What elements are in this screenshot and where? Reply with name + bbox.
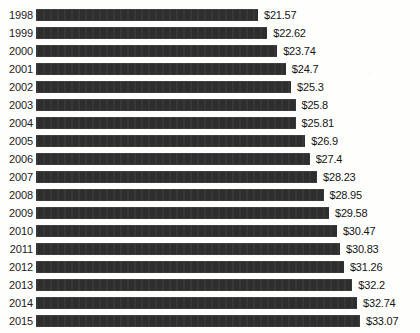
- bar-row: 2003$25.8: [0, 96, 420, 114]
- year-axis-label: 2002: [0, 81, 36, 93]
- bar-row: 2015$33.07: [0, 312, 420, 330]
- bar: [36, 243, 340, 255]
- year-axis-label: 2015: [0, 315, 36, 327]
- bar-chart: 1998$21.571999$22.622000$23.742001$24.72…: [0, 0, 420, 333]
- bar-value-label: $27.4: [316, 153, 343, 165]
- bar: [36, 189, 324, 201]
- bar-track: $21.57: [36, 6, 420, 24]
- bar-value-label: $24.7: [292, 63, 319, 75]
- year-axis-label: 2008: [0, 189, 36, 201]
- year-axis-label: 1998: [0, 9, 36, 21]
- year-axis-label: 1999: [0, 27, 36, 39]
- bar-value-label: $26.9: [311, 135, 338, 147]
- bar-track: $25.8: [36, 96, 420, 114]
- year-axis-label: 2001: [0, 63, 36, 75]
- year-axis-label: 2012: [0, 261, 36, 273]
- bar-row: 2011$30.83: [0, 240, 420, 258]
- year-axis-label: 2014: [0, 297, 36, 309]
- bar-value-label: $28.23: [323, 171, 355, 183]
- bar-row: 2013$32.2: [0, 276, 420, 294]
- bar-row: 2000$23.74: [0, 42, 420, 60]
- bar-track: $22.62: [36, 24, 420, 42]
- bar-value-label: $30.83: [346, 243, 378, 255]
- bar-value-label: $32.2: [358, 279, 385, 291]
- year-axis-label: 2007: [0, 171, 36, 183]
- bar-row: 2002$25.3: [0, 78, 420, 96]
- bar-track: $30.47: [36, 222, 420, 240]
- year-axis-label: 2011: [0, 243, 36, 255]
- bar-row: 2007$28.23: [0, 168, 420, 186]
- bar: [36, 27, 267, 39]
- bar-value-label: $33.07: [366, 315, 398, 327]
- bar-value-label: $25.3: [297, 81, 324, 93]
- bar: [36, 297, 357, 309]
- bar-track: $26.9: [36, 132, 420, 150]
- bar: [36, 279, 352, 291]
- bar-value-label: $22.62: [273, 27, 305, 39]
- bar-value-label: $23.74: [283, 45, 315, 57]
- bar-value-label: $30.47: [343, 225, 375, 237]
- bar: [36, 99, 296, 111]
- bar-track: $31.26: [36, 258, 420, 276]
- bar-track: $28.23: [36, 168, 420, 186]
- bar: [36, 45, 277, 57]
- bar-track: $33.07: [36, 312, 420, 330]
- bar-track: $24.7: [36, 60, 420, 78]
- bar-track: $25.81: [36, 114, 420, 132]
- bar-value-label: $32.74: [363, 297, 395, 309]
- bar: [36, 225, 337, 237]
- year-axis-label: 2005: [0, 135, 36, 147]
- year-axis-label: 2004: [0, 117, 36, 129]
- bar: [36, 315, 360, 327]
- bar-row: 2005$26.9: [0, 132, 420, 150]
- year-axis-label: 2003: [0, 99, 36, 111]
- year-axis-label: 2013: [0, 279, 36, 291]
- bar-value-label: $31.26: [350, 261, 382, 273]
- bar: [36, 81, 291, 93]
- bar-track: $32.74: [36, 294, 420, 312]
- bar-row: 2008$28.95: [0, 186, 420, 204]
- bar-row: 2012$31.26: [0, 258, 420, 276]
- bar-row: 2001$24.7: [0, 60, 420, 78]
- bar-row: 2009$29.58: [0, 204, 420, 222]
- bar-value-label: $25.8: [302, 99, 329, 111]
- bar-value-label: $29.58: [335, 207, 367, 219]
- bar-track: $32.2: [36, 276, 420, 294]
- bar-track: $30.83: [36, 240, 420, 258]
- bar: [36, 261, 344, 273]
- bar: [36, 153, 310, 165]
- bar: [36, 135, 305, 147]
- year-axis-label: 2009: [0, 207, 36, 219]
- bar-value-label: $28.95: [330, 189, 362, 201]
- bar-row: 2014$32.74: [0, 294, 420, 312]
- bar-track: $28.95: [36, 186, 420, 204]
- bar-track: $23.74: [36, 42, 420, 60]
- bar-track: $25.3: [36, 78, 420, 96]
- bar: [36, 63, 286, 75]
- bar: [36, 9, 258, 21]
- bar-row: 2010$30.47: [0, 222, 420, 240]
- year-axis-label: 2010: [0, 225, 36, 237]
- bar: [36, 171, 317, 183]
- bar: [36, 117, 296, 129]
- year-axis-label: 2000: [0, 45, 36, 57]
- bar-row: 2004$25.81: [0, 114, 420, 132]
- bar-track: $29.58: [36, 204, 420, 222]
- bar-row: 1999$22.62: [0, 24, 420, 42]
- bar-row: 2006$27.4: [0, 150, 420, 168]
- year-axis-label: 2006: [0, 153, 36, 165]
- bar: [36, 207, 329, 219]
- bar-value-label: $21.57: [264, 9, 296, 21]
- bar-track: $27.4: [36, 150, 420, 168]
- bar-value-label: $25.81: [302, 117, 334, 129]
- bar-row: 1998$21.57: [0, 6, 420, 24]
- bar-rows: 1998$21.571999$22.622000$23.742001$24.72…: [0, 6, 420, 330]
